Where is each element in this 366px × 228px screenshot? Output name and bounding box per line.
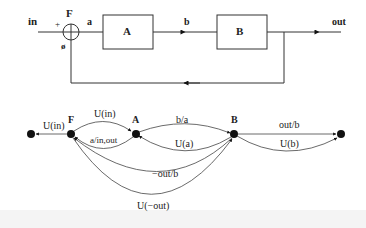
block-a-label: A: [123, 25, 131, 37]
node-b-label: B: [231, 114, 238, 125]
edge-b-a-label: U(a): [175, 138, 193, 150]
edge-b-out-label: out/b: [279, 119, 300, 130]
edge-a-b: [139, 124, 230, 133]
block-b-label: B: [236, 25, 244, 37]
node-out: [337, 130, 345, 138]
edge-b-f-label: −out/b: [152, 168, 178, 179]
node-f-label: F: [68, 114, 74, 125]
plus-sign: +: [55, 19, 60, 29]
output-label: out: [332, 16, 347, 27]
diagram-canvas: in + F ø a A b B out F A B: [0, 0, 366, 228]
edge-b-out-u-label: U(b): [280, 138, 299, 150]
junction-label: F: [66, 7, 73, 19]
signal-b-label: b: [184, 16, 190, 27]
node-f: [67, 130, 75, 138]
edge-f-a-label: U(in): [94, 108, 116, 120]
node-a: [132, 130, 140, 138]
edge-a-b-label: b/a: [176, 114, 189, 125]
node-a-label: A: [132, 114, 140, 125]
minus-sign: ø: [61, 41, 66, 51]
edge-a-f-label: a/in,out: [90, 135, 118, 145]
block-diagram: in + F ø a A b B out: [28, 7, 347, 83]
node-in: [27, 130, 35, 138]
edge-f-in-label: U(in): [43, 120, 65, 132]
signal-a-label: a: [87, 16, 92, 27]
edge-f-b: [73, 138, 232, 194]
edge-f-b-label: U(−out): [137, 200, 169, 212]
node-b: [230, 130, 238, 138]
flow-graph: F A B U(in) U(in) a/in,out b/a U(a) −out…: [27, 108, 345, 212]
input-label: in: [28, 15, 37, 27]
edge-f-a: [74, 122, 131, 132]
